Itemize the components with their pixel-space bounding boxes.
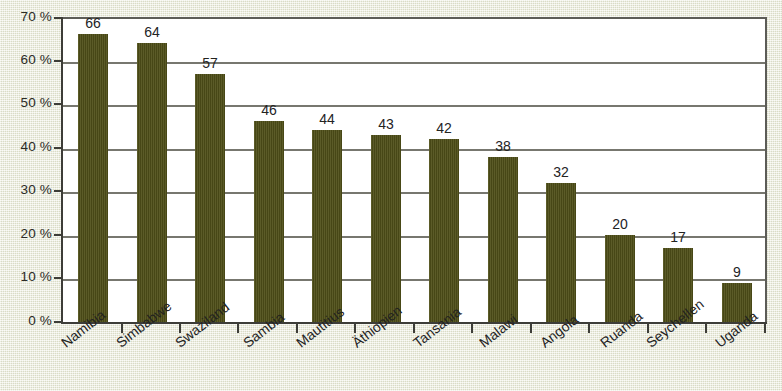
bar-value-malawi: 38 [488, 138, 518, 154]
bar-simbabwe [137, 43, 167, 322]
gridline-40 [63, 149, 765, 151]
x-tick-mark [588, 324, 590, 333]
y-tick-label-30: 30 % [20, 182, 52, 197]
y-tick-mark [54, 190, 63, 192]
bar-value-seychellen: 17 [663, 229, 693, 245]
bar-namibia [78, 34, 108, 322]
bar-malawi [488, 157, 518, 322]
y-tick-mark [54, 17, 63, 19]
y-tick-label-50: 50 % [20, 95, 52, 110]
x-tick-mark [530, 324, 532, 333]
bar-value-angola: 32 [546, 164, 576, 180]
gridline-50 [63, 105, 765, 107]
bar-value-mautitius: 44 [312, 111, 342, 127]
x-tick-mark [237, 324, 239, 333]
bar-value-simbabwe: 64 [137, 24, 167, 40]
y-tick-mark [54, 277, 63, 279]
bar-swaziland [195, 74, 225, 322]
x-tick-mark [764, 324, 766, 333]
y-tick-mark [54, 60, 63, 62]
bar-value-aethiopien: 43 [371, 116, 401, 132]
bar-mautitius [312, 130, 342, 322]
y-tick-label-70: 70 % [20, 9, 52, 24]
y-tick-mark [54, 147, 63, 149]
gridline-10 [63, 279, 765, 281]
y-tick-label-20: 20 % [20, 226, 52, 241]
bar-angola [546, 183, 576, 322]
bar-tansania [429, 139, 459, 322]
y-tick-label-60: 60 % [20, 52, 52, 67]
bar-value-namibia: 66 [78, 15, 108, 31]
x-tick-mark [296, 324, 298, 333]
y-tick-mark [54, 234, 63, 236]
x-tick-mark [647, 324, 649, 333]
x-tick-mark [471, 324, 473, 333]
gridline-60 [63, 62, 765, 64]
bar-value-uganda: 9 [722, 264, 752, 280]
y-tick-mark [54, 103, 63, 105]
y-tick-label-10: 10 % [20, 269, 52, 284]
x-tick-mark [413, 324, 415, 333]
x-tick-mark [705, 324, 707, 333]
y-tick-label-0: 0 % [28, 313, 52, 328]
plot-area [63, 17, 767, 324]
y-tick-mark [54, 321, 63, 323]
gridline-20 [63, 236, 765, 238]
bar-sambia [254, 121, 284, 322]
y-tick-label-40: 40 % [20, 139, 52, 154]
bar-value-tansania: 42 [429, 120, 459, 136]
bar-chart: 70 % 60 % 50 % 40 % 30 % 20 % 10 % 0 % 6… [0, 0, 782, 391]
gridline-30 [63, 192, 765, 194]
bar-value-sambia: 46 [254, 102, 284, 118]
bar-aethiopien [371, 135, 401, 322]
bar-ruanda [605, 235, 635, 322]
bar-value-swaziland: 57 [195, 55, 225, 71]
bar-value-ruanda: 20 [605, 216, 635, 232]
